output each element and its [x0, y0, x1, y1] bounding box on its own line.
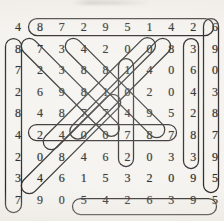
grid-cell: 3 — [117, 169, 139, 187]
grid-cell: 8 — [160, 40, 182, 58]
grid-cell: 4 — [7, 126, 29, 144]
grid-cell: 6 — [29, 83, 51, 101]
grid-cell: 5 — [73, 191, 95, 209]
grid-cell: 2 — [29, 126, 51, 144]
grid-cell: 4 — [51, 126, 73, 144]
grid-cell: 2 — [182, 104, 204, 122]
grid-cell: 2 — [7, 148, 29, 166]
grid-cell: 4 — [73, 148, 95, 166]
grid-cell: 8 — [51, 104, 73, 122]
grid-cell: 8 — [7, 104, 29, 122]
grid-cell: 8 — [138, 126, 160, 144]
grid-cell: 0 — [138, 148, 160, 166]
grid-cell: 4 — [117, 104, 139, 122]
grid-cell: 1 — [117, 61, 139, 79]
grid-cell: 6 — [51, 169, 73, 187]
grid-cell: 7 — [7, 61, 29, 79]
grid-cell: 4 — [29, 104, 51, 122]
grid-cell: 6 — [138, 191, 160, 209]
grid-cell: 2 — [73, 18, 95, 36]
grid-cell: 6 — [204, 18, 224, 36]
grid-cell: 8 — [204, 104, 224, 122]
grid-cell: 5 — [95, 169, 117, 187]
grid-cell: 4 — [182, 83, 204, 101]
grid-cell: 9 — [29, 191, 51, 209]
grid-cell: 0 — [204, 61, 224, 79]
grid-cell: 9 — [204, 148, 224, 166]
grid-cell: 9 — [182, 169, 204, 187]
grid-cell: 3 — [182, 148, 204, 166]
grid-cell: 0 — [29, 148, 51, 166]
grid-cell: 3 — [51, 40, 73, 58]
grid-cell: 3 — [160, 191, 182, 209]
grid-cell: 2 — [29, 61, 51, 79]
grid-cell: 8 — [51, 148, 73, 166]
grid-cell: 9 — [51, 83, 73, 101]
grid-cell: 8 — [73, 61, 95, 79]
grid-cell: 3 — [182, 40, 204, 58]
grid-cell: 0 — [160, 83, 182, 101]
grid-cell: 4 — [73, 40, 95, 58]
grid-cell: 4 — [160, 18, 182, 36]
grid-cell: 0 — [117, 83, 139, 101]
grid-cell: 2 — [95, 40, 117, 58]
grid-cell: 8 — [7, 40, 29, 58]
grid-cell: 3 — [51, 61, 73, 79]
grid-cell: 4 — [95, 191, 117, 209]
grid-cell: 2 — [117, 191, 139, 209]
grid-cell: 3 — [7, 169, 29, 187]
grid-cell: 2 — [138, 83, 160, 101]
grid-cell: 6 — [182, 61, 204, 79]
digit-grid: 4872951426873420083972388140602698102043… — [0, 0, 224, 221]
grid-cell: 4 — [29, 169, 51, 187]
grid-cell: 0 — [160, 61, 182, 79]
grid-cell: 7 — [51, 18, 73, 36]
grid-cell: 0 — [117, 40, 139, 58]
grid-cell: 9 — [204, 40, 224, 58]
grid-cell: 4 — [138, 61, 160, 79]
grid-cell: 5 — [204, 191, 224, 209]
grid-cell: 9 — [138, 104, 160, 122]
grid-cell: 5 — [160, 104, 182, 122]
grid-cell: 0 — [138, 40, 160, 58]
grid-cell: 7 — [7, 191, 29, 209]
grid-cell: 8 — [73, 83, 95, 101]
number-search-puzzle: 4872951426873420083972388140602698102043… — [0, 0, 224, 221]
grid-cell: 4 — [7, 18, 29, 36]
grid-cell: 9 — [182, 191, 204, 209]
grid-cell: 0 — [51, 191, 73, 209]
grid-cell: 9 — [95, 18, 117, 36]
grid-cell: 5 — [117, 18, 139, 36]
grid-cell: 0 — [95, 126, 117, 144]
grid-cell: 7 — [95, 104, 117, 122]
grid-cell: 7 — [73, 104, 95, 122]
grid-cell: 6 — [95, 148, 117, 166]
grid-cell: 8 — [95, 61, 117, 79]
grid-cell: 1 — [95, 83, 117, 101]
grid-cell: 0 — [160, 169, 182, 187]
grid-cell: 1 — [138, 18, 160, 36]
grid-cell: 3 — [160, 148, 182, 166]
grid-cell: 7 — [160, 126, 182, 144]
grid-cell: 7 — [204, 126, 224, 144]
grid-cell: 1 — [73, 169, 95, 187]
grid-cell: 3 — [204, 83, 224, 101]
grid-cell: 8 — [29, 18, 51, 36]
grid-cell: 5 — [204, 169, 224, 187]
grid-cell: 2 — [138, 169, 160, 187]
grid-cell: 2 — [182, 18, 204, 36]
grid-cell: 0 — [73, 126, 95, 144]
grid-cell: 2 — [7, 83, 29, 101]
grid-cell: 8 — [182, 126, 204, 144]
grid-cell: 7 — [29, 40, 51, 58]
grid-cell: 7 — [117, 126, 139, 144]
grid-cell: 2 — [117, 148, 139, 166]
